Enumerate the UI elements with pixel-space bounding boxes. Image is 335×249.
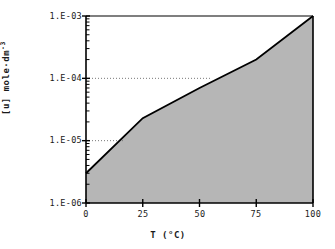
chart-plot-area: [0, 0, 335, 249]
x-tick-label-50: 50: [195, 209, 206, 219]
x-axis-title: T (°C): [150, 230, 186, 240]
y-tick-label-1e-3: 1.E-03: [30, 11, 82, 21]
chart-figure: 1.E-03 1.E-04 1.E-05 1.E-06 0 25 50 75 1…: [0, 0, 335, 249]
y-axis-title-exponent: -3: [0, 41, 7, 50]
x-tick-label-0: 0: [83, 209, 88, 219]
y-tick-label-1e-4: 1.E-04: [30, 73, 82, 83]
y-axis-title-text: [u] mole·dm: [1, 50, 11, 115]
y-tick-label-1e-6: 1.E-06: [30, 198, 82, 208]
x-tick-label-75: 75: [251, 209, 262, 219]
y-tick-label-1e-5: 1.E-05: [30, 135, 82, 145]
x-tick-label-25: 25: [138, 209, 149, 219]
x-tick-label-100: 100: [305, 209, 321, 219]
y-axis-title: [u] mole·dm-3: [1, 41, 11, 115]
